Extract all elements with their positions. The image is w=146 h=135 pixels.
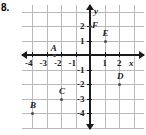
problem-number: 8.: [1, 3, 9, 13]
plotted-point-e: [104, 40, 107, 43]
point-label-c: C: [59, 87, 65, 96]
plotted-point-a: [53, 54, 56, 57]
point-label-a: A: [51, 44, 57, 53]
plotted-point-d: [118, 83, 121, 86]
plotted-point-b: [31, 112, 34, 115]
plotted-point-c: [60, 98, 63, 101]
coordinate-plane: x y -4-3-2-11221-1-2-3-4 ABCDEF: [22, 5, 144, 129]
point-label-b: B: [30, 101, 36, 110]
plotted-points-layer: ABCDEF: [22, 5, 144, 129]
point-label-f: F: [92, 21, 98, 30]
point-label-e: E: [103, 29, 109, 38]
worksheet-problem: 8. x y -4-3-2-11221-1-2-3-4 ABCDEF: [0, 0, 146, 135]
point-label-d: D: [117, 72, 124, 81]
